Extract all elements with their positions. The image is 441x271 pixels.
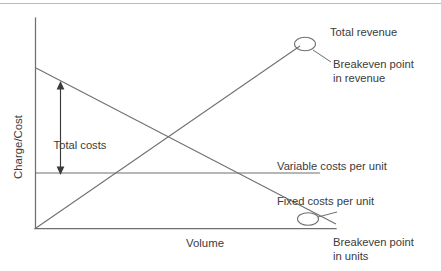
breakeven-point-in-units-label-line2: in units	[333, 250, 369, 262]
variable-costs-per-unit-label: Variable costs per unit	[277, 160, 388, 172]
breakeven-point-in-revenue-label-line2: in revenue	[333, 72, 385, 84]
fixed-costs-per-unit-label: Fixed costs per unit	[277, 195, 375, 207]
breakeven-point-in-revenue-label-line1: Breakeven point	[333, 58, 415, 70]
total-costs-label: Total costs	[54, 139, 107, 151]
y-axis-label: Charge/Cost	[12, 114, 24, 179]
breakeven-point-in-units-label-line1: Breakeven point	[333, 236, 415, 248]
breakeven-chart-figure: Charge/Cost Volume Total costs Total rev…	[0, 0, 441, 271]
figure-background	[0, 0, 441, 271]
x-axis-label: Volume	[186, 237, 224, 249]
total-revenue-label: Total revenue	[330, 26, 397, 38]
